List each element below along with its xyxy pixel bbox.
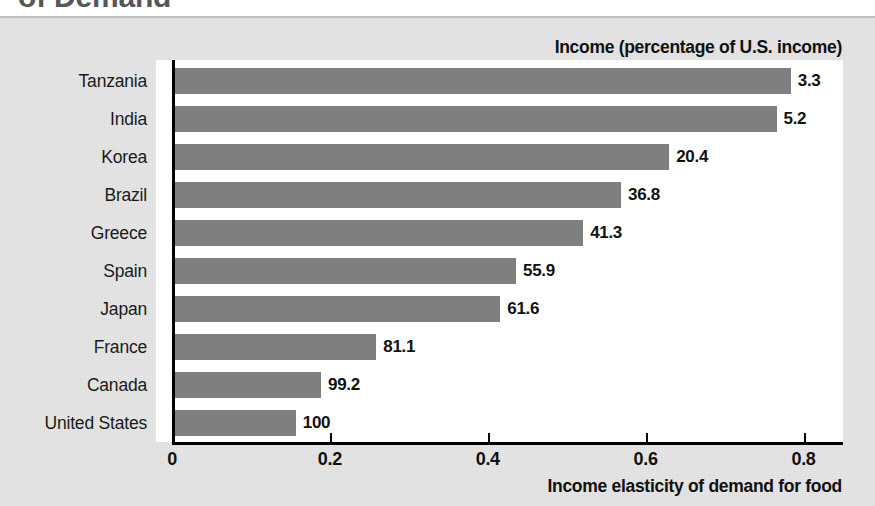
x-tick: [330, 433, 332, 442]
bar[interactable]: [175, 334, 376, 360]
x-tick: [488, 433, 490, 442]
bar-value-label: 5.2: [784, 109, 807, 129]
bar[interactable]: [175, 144, 669, 170]
bar-row: 99.2: [175, 366, 360, 404]
bar-value-label: 100: [303, 413, 330, 433]
x-tick: [646, 433, 648, 442]
category-label-france: France: [94, 328, 156, 366]
category-label-canada: Canada: [87, 366, 156, 404]
category-label-korea: Korea: [101, 138, 156, 176]
category-axis-labels: TanzaniaIndiaKoreaBrazilGreeceSpainJapan…: [0, 60, 156, 442]
category-label-spain: Spain: [103, 252, 156, 290]
bar-value-label: 61.6: [507, 299, 539, 319]
x-axis-line: [172, 442, 843, 445]
bar-row: 41.3: [175, 214, 622, 252]
bar-value-label: 20.4: [676, 147, 708, 167]
x-tick-label: 0.4: [476, 449, 500, 470]
bar-value-label: 99.2: [328, 375, 360, 395]
bar[interactable]: [175, 410, 296, 436]
bar-row: 55.9: [175, 252, 555, 290]
chapter-title-strip: of Demand: [0, 0, 875, 16]
bar-row: 5.2: [175, 100, 806, 138]
bar-value-label: 41.3: [590, 223, 622, 243]
bar[interactable]: [175, 182, 621, 208]
bar[interactable]: [175, 220, 583, 246]
category-label-tanzania: Tanzania: [79, 62, 156, 100]
bar-row: 61.6: [175, 290, 539, 328]
bar-row: 20.4: [175, 138, 708, 176]
category-label-japan: Japan: [100, 290, 156, 328]
chart-figure-panel: Income (percentage of U.S. income) Tanza…: [0, 16, 875, 506]
x-tick-label: 0.8: [791, 449, 815, 470]
bar[interactable]: [175, 296, 500, 322]
bar-value-label: 3.3: [798, 71, 821, 91]
figure-root: of Demand Income (percentage of U.S. inc…: [0, 0, 875, 506]
chapter-title: of Demand: [18, 0, 171, 14]
category-label-brazil: Brazil: [104, 176, 156, 214]
bar-value-label: 55.9: [523, 261, 555, 281]
x-tick-label: 0: [167, 449, 177, 470]
income-legend-note: Income (percentage of U.S. income): [555, 37, 842, 58]
x-tick-label: 0.6: [634, 449, 658, 470]
x-axis-title: Income elasticity of demand for food: [547, 476, 842, 497]
bar-row: 3.3: [175, 62, 820, 100]
bar[interactable]: [175, 258, 516, 284]
bar-value-label: 81.1: [383, 337, 415, 357]
bar-row: 81.1: [175, 328, 415, 366]
category-label-india: India: [110, 100, 156, 138]
bar[interactable]: [175, 106, 777, 132]
plot-area: 3.35.220.436.841.355.961.681.199.2100: [156, 60, 843, 442]
bar[interactable]: [175, 372, 321, 398]
bar-row: 100: [175, 404, 330, 442]
bar-row: 36.8: [175, 176, 660, 214]
x-tick: [804, 433, 806, 442]
x-tick-label: 0.2: [318, 449, 342, 470]
category-label-united-states: United States: [45, 404, 156, 442]
category-label-greece: Greece: [91, 214, 156, 252]
bar[interactable]: [175, 68, 791, 94]
bar-value-label: 36.8: [628, 185, 660, 205]
